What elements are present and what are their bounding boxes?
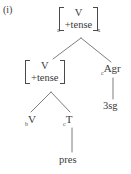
bracket-right-icon bbox=[60, 60, 65, 84]
agr-label: Agr bbox=[104, 62, 121, 74]
root-feature-matrix: V +tense bbox=[59, 7, 99, 31]
t-label: T bbox=[66, 113, 73, 125]
root-right-subscript: x bbox=[97, 27, 100, 33]
t-subscript: c bbox=[63, 121, 66, 127]
inner-row-category: V bbox=[41, 60, 49, 72]
root-row-category: V bbox=[75, 7, 83, 19]
inner-feature-matrix: V +tense bbox=[25, 60, 65, 84]
tree-leaf-pres: pres bbox=[59, 155, 77, 166]
root-left-subscript: a bbox=[57, 27, 60, 33]
inner-row-feature: +tense bbox=[31, 72, 59, 84]
edge-root-to-inner bbox=[53, 38, 81, 59]
v-label: V bbox=[28, 113, 36, 125]
tree-node-root: a V +tense x bbox=[57, 7, 100, 31]
tree-node-agr: cAgr bbox=[101, 63, 121, 74]
v-subscript: b bbox=[25, 121, 28, 127]
tree-node-inner: V +tense bbox=[25, 60, 65, 84]
edge-inner-to-v bbox=[31, 92, 51, 112]
root-matrix-rows: V +tense bbox=[64, 7, 94, 31]
syntax-tree-figure: (i) a V +tense x bbox=[0, 0, 131, 174]
tree-leaf-3sg: 3sg bbox=[103, 101, 118, 112]
edge-root-to-agr bbox=[81, 38, 111, 62]
tree-node-v: bV bbox=[25, 114, 36, 125]
tree-node-t: cT bbox=[63, 114, 72, 125]
edge-inner-to-t bbox=[51, 92, 70, 112]
root-row-feature: +tense bbox=[65, 19, 93, 31]
agr-subscript: c bbox=[101, 70, 104, 76]
inner-matrix-rows: V +tense bbox=[30, 60, 60, 84]
